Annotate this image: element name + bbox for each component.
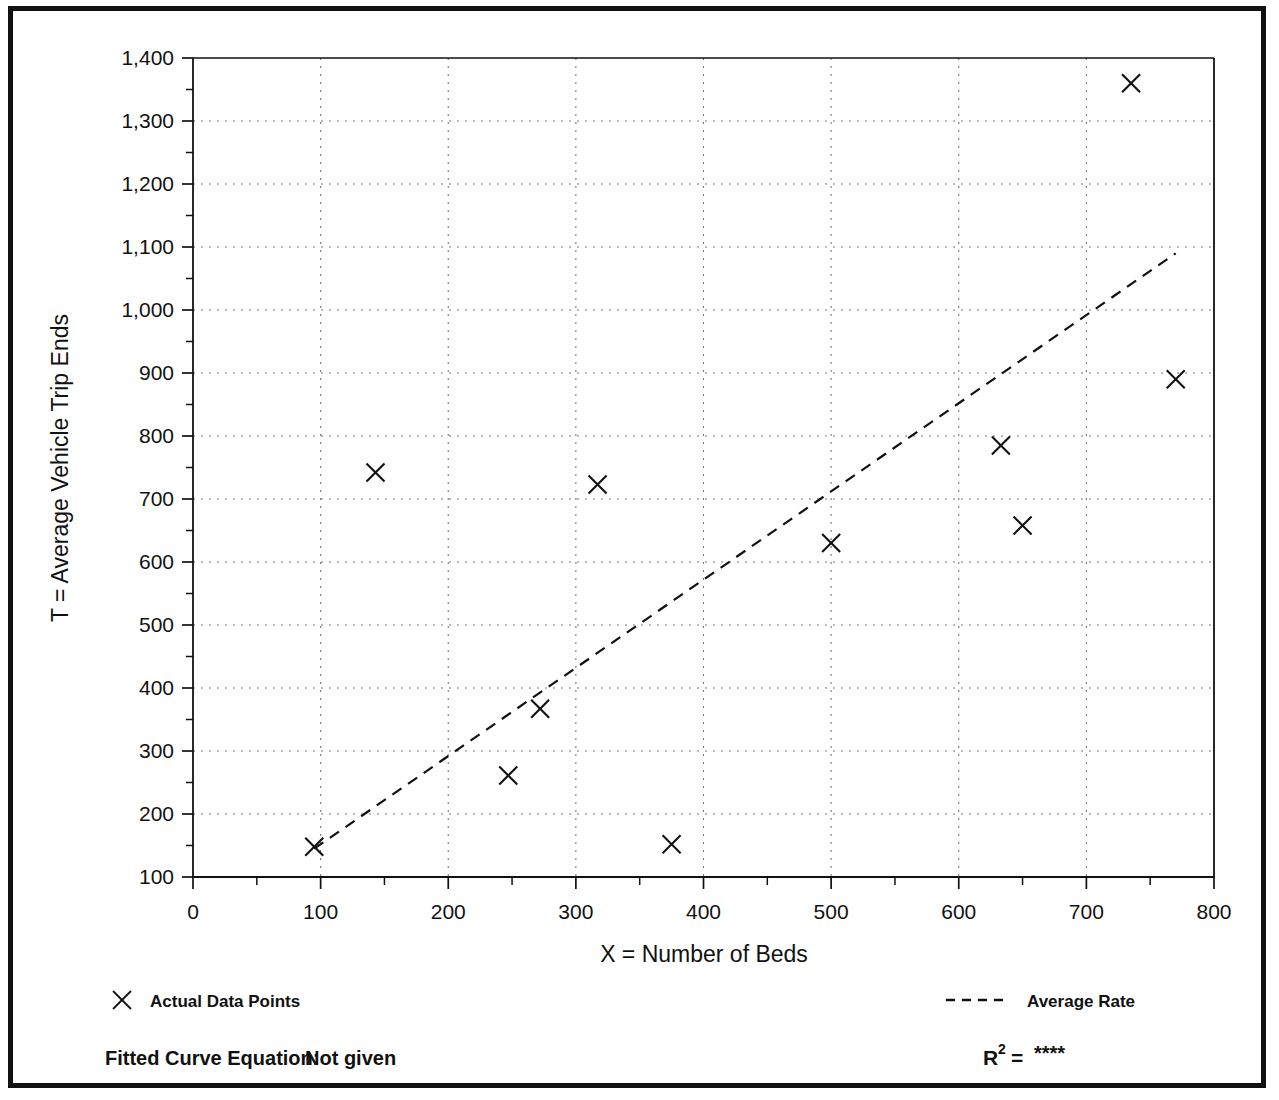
y-tick-label: 200 bbox=[139, 802, 174, 825]
equation-value: Not given bbox=[305, 1047, 396, 1069]
y-tick-label: 1,300 bbox=[121, 109, 174, 132]
data-point-marker bbox=[822, 534, 840, 552]
r-squared-readout: R 2 = **** bbox=[983, 1041, 1065, 1069]
equation-label: Fitted Curve Equation: bbox=[105, 1047, 319, 1069]
r2-label: R bbox=[983, 1046, 998, 1069]
data-point-marker bbox=[1122, 74, 1140, 92]
y-tick-label: 900 bbox=[139, 361, 174, 384]
x-tick-label: 200 bbox=[431, 900, 466, 923]
fitted-curve-equation: Fitted Curve Equation: Not given bbox=[105, 1047, 396, 1069]
y-tick-label: 600 bbox=[139, 550, 174, 573]
x-tick-label: 600 bbox=[941, 900, 976, 923]
data-points-layer bbox=[305, 74, 1184, 856]
y-tick-label: 500 bbox=[139, 613, 174, 636]
y-tick-label: 700 bbox=[139, 487, 174, 510]
legend-average-rate: Average Rate bbox=[946, 992, 1135, 1011]
y-tick-label: 100 bbox=[139, 865, 174, 888]
y-tick-label: 800 bbox=[139, 424, 174, 447]
x-axis-tick-labels: 0100200300400500600700800 bbox=[187, 900, 1231, 923]
data-point-marker bbox=[499, 767, 517, 785]
data-point-marker bbox=[1014, 516, 1032, 534]
x-tick-label: 300 bbox=[558, 900, 593, 923]
y-tick-label: 1,100 bbox=[121, 235, 174, 258]
x-tick-label: 800 bbox=[1196, 900, 1231, 923]
x-tick-label: 700 bbox=[1069, 900, 1104, 923]
x-tick-label: 400 bbox=[686, 900, 721, 923]
tick-marks-layer bbox=[182, 58, 1214, 889]
legend-data-points: Actual Data Points bbox=[113, 991, 300, 1011]
y-tick-label: 1,200 bbox=[121, 172, 174, 195]
y-tick-label: 1,000 bbox=[121, 298, 174, 321]
data-point-marker bbox=[305, 838, 323, 856]
data-point-marker bbox=[1167, 370, 1185, 388]
y-tick-label: 400 bbox=[139, 676, 174, 699]
data-point-marker bbox=[589, 476, 607, 494]
data-point-marker bbox=[531, 700, 549, 718]
data-point-marker bbox=[992, 436, 1010, 454]
legend-average-rate-label: Average Rate bbox=[1027, 992, 1135, 1011]
data-point-marker bbox=[367, 464, 385, 482]
r2-exponent: 2 bbox=[998, 1041, 1006, 1057]
average-rate-trendline bbox=[314, 253, 1175, 848]
grid-layer bbox=[193, 58, 1214, 877]
x-tick-label: 100 bbox=[303, 900, 338, 923]
x-tick-label: 500 bbox=[814, 900, 849, 923]
data-point-marker bbox=[663, 835, 681, 853]
r2-value: **** bbox=[1034, 1042, 1065, 1064]
y-tick-label: 300 bbox=[139, 739, 174, 762]
trendline-segment bbox=[314, 253, 1175, 848]
x-tick-label: 0 bbox=[187, 900, 199, 923]
x-axis-title: X = Number of Beds bbox=[600, 941, 808, 967]
r2-equals: = bbox=[1011, 1046, 1023, 1069]
y-axis-tick-labels: 1002003004005006007008009001,0001,1001,2… bbox=[121, 46, 174, 888]
y-tick-label: 1,400 bbox=[121, 46, 174, 69]
chart-stage: 1002003004005006007008009001,0001,1001,2… bbox=[0, 0, 1279, 1100]
legend-data-points-label: Actual Data Points bbox=[150, 992, 300, 1011]
scatter-chart: 1002003004005006007008009001,0001,1001,2… bbox=[0, 0, 1279, 1100]
y-axis-title: T = Average Vehicle Trip Ends bbox=[47, 314, 73, 622]
x-marker-icon bbox=[113, 991, 131, 1009]
